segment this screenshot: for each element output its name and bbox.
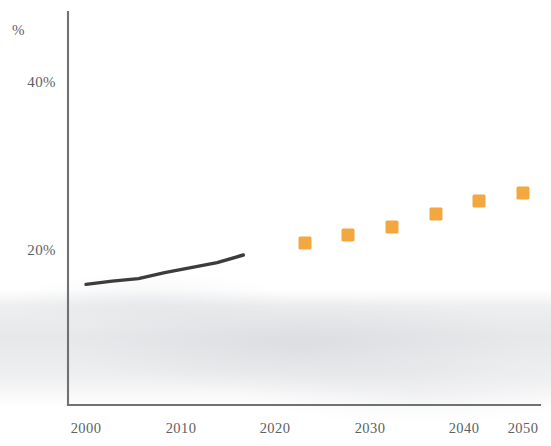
x-axis-tick-2040: 2040	[449, 420, 480, 437]
y-axis-tick-20: 20%	[0, 242, 56, 259]
x-axis-tick-2030: 2030	[355, 420, 386, 437]
projection-marker	[429, 207, 442, 220]
projection-marker	[342, 228, 355, 241]
plot-area	[0, 0, 551, 446]
projection-marker	[298, 237, 311, 250]
x-axis-tick-2000: 2000	[71, 420, 102, 437]
chart-figure: % 40% 20% 2000 2010 2020 2030 2040 2050	[0, 0, 551, 446]
y-axis-tick-40: 40%	[0, 74, 56, 91]
x-axis-tick-2020: 2020	[260, 420, 291, 437]
projection-marker	[473, 195, 486, 208]
projection-marker	[517, 186, 530, 199]
historical-series-line	[86, 255, 243, 284]
x-axis-tick-2010: 2010	[166, 420, 197, 437]
y-axis-title: %	[12, 22, 25, 39]
x-axis-tick-2050: 2050	[508, 420, 539, 437]
projection-marker	[385, 221, 398, 234]
